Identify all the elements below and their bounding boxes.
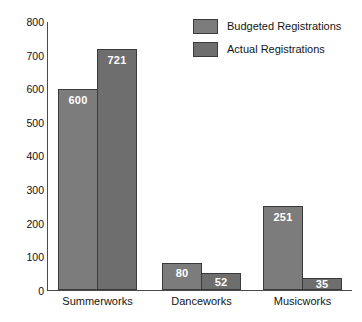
y-tick-200: 200 [4,219,44,229]
bars-layer: 600 721 80 52 251 35 [47,22,352,290]
bar-value-summerworks-budgeted: 600 [59,94,97,106]
y-tick-600: 600 [4,84,44,94]
bar-value-danceworks-budgeted: 80 [163,267,201,279]
bar-musicworks-actual[interactable]: 35 [302,278,342,290]
x-label-musicworks: Musicworks [252,294,353,308]
y-tick-100: 100 [4,252,44,262]
y-tick-400: 400 [4,151,44,161]
y-tick-700: 700 [4,51,44,61]
bar-summerworks-actual[interactable]: 721 [97,49,137,291]
x-label-danceworks: Danceworks [151,294,252,308]
y-axis-tick-labels: 800 700 600 500 400 300 200 100 0 [0,22,44,291]
bar-summerworks-budgeted[interactable]: 600 [58,89,98,290]
bar-value-musicworks-actual: 35 [303,278,341,290]
y-tick-500: 500 [4,118,44,128]
bar-value-summerworks-actual: 721 [98,54,136,66]
x-label-summerworks: Summerworks [47,294,148,308]
x-axis-category-labels: Summerworks Danceworks Musicworks [47,294,352,314]
bar-danceworks-budgeted[interactable]: 80 [162,263,202,290]
bar-chart: Budgeted Registrations Actual Registrati… [0,0,362,322]
bar-musicworks-budgeted[interactable]: 251 [263,206,303,290]
bar-value-danceworks-actual: 52 [202,276,240,288]
bar-value-musicworks-budgeted: 251 [264,211,302,223]
y-tick-0: 0 [4,286,44,296]
y-tick-800: 800 [4,17,44,27]
y-tick-300: 300 [4,185,44,195]
bar-danceworks-actual[interactable]: 52 [201,273,241,290]
plot-area: 600 721 80 52 251 35 [47,22,352,291]
